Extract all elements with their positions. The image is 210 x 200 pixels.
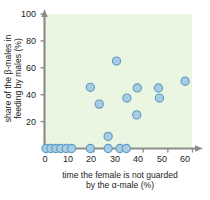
- y-axis-arrowhead: [41, 9, 48, 17]
- data-point: [104, 144, 112, 152]
- x-axis-arrowhead: [195, 145, 203, 152]
- x-tick-label: 50: [152, 155, 172, 164]
- y-axis-title-line1: share of the β-males in: [3, 12, 13, 144]
- x-tick-label: 30: [105, 155, 125, 164]
- x-tick-label: 60: [175, 155, 195, 164]
- data-point: [181, 77, 189, 85]
- x-axis-title: time the female is not guarded by the α-…: [30, 170, 210, 191]
- scatter-chart-figure: 10080604020 0102030405060 time the femal…: [0, 0, 210, 200]
- data-point: [95, 100, 103, 108]
- x-tick-label: 40: [128, 155, 148, 164]
- x-tick-label: 20: [81, 155, 101, 164]
- tickmarks-group: [41, 14, 193, 153]
- data-points-group: [42, 57, 189, 153]
- x-axis-title-line1: time the female is not guarded: [30, 170, 210, 180]
- y-axis-title: share of the β-males in feeding by males…: [3, 12, 24, 144]
- axes-group: [41, 9, 203, 152]
- data-point: [155, 94, 163, 102]
- data-point: [133, 111, 141, 119]
- data-point: [112, 57, 120, 65]
- data-point: [86, 83, 94, 91]
- x-tick-label: 0: [35, 155, 55, 164]
- data-point: [86, 144, 94, 152]
- data-point: [154, 84, 162, 92]
- data-point: [104, 132, 112, 140]
- x-axis-title-line2: by the α-male (%): [30, 180, 210, 190]
- data-point: [123, 94, 131, 102]
- data-point: [68, 144, 76, 152]
- data-point: [122, 144, 130, 152]
- data-point: [133, 84, 141, 92]
- x-tick-label: 10: [58, 155, 78, 164]
- y-axis-title-line2: feeding by males (%): [13, 12, 23, 144]
